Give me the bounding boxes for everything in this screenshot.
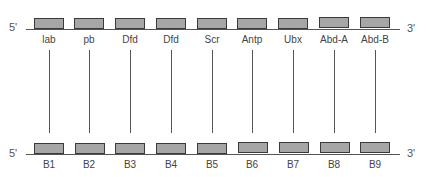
gene-label-b2: B2	[67, 159, 111, 170]
gene-label-b3: B3	[108, 159, 152, 170]
bottom-gene-box-6	[238, 142, 268, 153]
top-gene-box-1	[34, 18, 64, 29]
top-gene-box-6	[237, 18, 267, 29]
top-gene-box-3	[115, 18, 145, 29]
top-3prime-label: 3'	[407, 22, 415, 34]
gene-label-b7: B7	[271, 159, 315, 170]
bottom-gene-box-7	[279, 142, 309, 153]
gene-label-dfd-1: Dfd	[108, 34, 152, 45]
bottom-gene-box-4	[156, 143, 186, 154]
homology-line-5	[212, 50, 213, 133]
bottom-gene-box-8	[320, 142, 350, 153]
bottom-strand-line	[26, 154, 400, 155]
gene-label-lab: lab	[27, 34, 71, 45]
gene-label-antp: Antp	[230, 34, 274, 45]
gene-label-b4: B4	[149, 159, 193, 170]
bottom-gene-box-9	[360, 142, 390, 153]
gene-label-b6: B6	[230, 159, 274, 170]
gene-label-b9: B9	[353, 159, 397, 170]
top-gene-box-2	[74, 18, 104, 29]
homology-line-7	[293, 50, 294, 133]
bottom-5prime-label: 5'	[9, 147, 17, 159]
gene-label-ubx: Ubx	[271, 34, 315, 45]
homology-line-6	[252, 50, 253, 133]
gene-label-b8: B8	[312, 159, 356, 170]
top-gene-box-8	[319, 17, 349, 28]
gene-label-abd-a: Abd-A	[312, 34, 356, 45]
gene-label-abd-b: Abd-B	[353, 34, 397, 45]
top-gene-box-5	[197, 18, 227, 29]
gene-label-pb: pb	[67, 34, 111, 45]
bottom-gene-box-3	[115, 143, 145, 154]
bottom-gene-box-2	[75, 143, 105, 154]
homology-line-8	[334, 50, 335, 133]
homology-line-3	[130, 50, 131, 133]
homology-line-9	[375, 50, 376, 133]
top-gene-box-9	[360, 17, 390, 28]
bottom-3prime-label: 3'	[407, 147, 415, 159]
homology-line-2	[89, 50, 90, 133]
gene-label-b5: B5	[190, 159, 234, 170]
top-gene-box-7	[278, 18, 308, 29]
top-strand-line	[26, 29, 400, 30]
top-gene-box-4	[156, 18, 186, 29]
homology-line-4	[171, 50, 172, 133]
gene-label-scr: Scr	[190, 34, 234, 45]
gene-label-dfd-2: Dfd	[149, 34, 193, 45]
bottom-gene-box-1	[34, 143, 64, 154]
bottom-gene-box-5	[197, 143, 227, 154]
gene-label-b1: B1	[27, 159, 71, 170]
top-5prime-label: 5'	[9, 21, 17, 33]
homology-line-1	[49, 50, 50, 133]
